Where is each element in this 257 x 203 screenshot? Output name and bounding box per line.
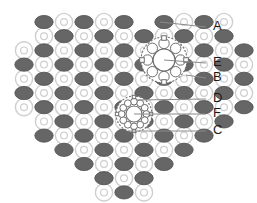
lattice-particle	[195, 44, 213, 57]
lattice-particle	[95, 58, 113, 71]
lattice-particle	[75, 157, 93, 170]
lattice-ring-inner	[241, 61, 248, 68]
lattice-ring-inner	[81, 90, 88, 97]
lattice-particle	[115, 44, 133, 57]
lattice-particle	[35, 129, 53, 142]
lattice-ring-inner	[101, 189, 108, 196]
rosette-node	[132, 95, 135, 98]
lattice-particle	[75, 15, 93, 28]
lattice-particle	[135, 143, 153, 156]
lattice-ring-inner	[61, 75, 68, 82]
lattice-ring-inner	[41, 90, 48, 97]
lattice-ring-inner	[81, 146, 88, 153]
lattice-particle	[95, 172, 113, 185]
lattice-ring-inner	[61, 19, 68, 26]
lattice-particle	[75, 101, 93, 114]
lattice-ring-inner	[41, 118, 48, 125]
lattice-ring-inner	[101, 75, 108, 82]
label-d: D	[213, 90, 222, 105]
lattice-particle	[95, 30, 113, 43]
lattice-particle	[95, 115, 113, 128]
lattice-ring-inner	[121, 33, 128, 40]
lattice-ring-inner	[201, 33, 208, 40]
rosette-node	[162, 36, 167, 41]
lattice-ring-inner	[201, 90, 208, 97]
lattice-ring-inner	[161, 146, 168, 153]
lattice-particle	[95, 143, 113, 156]
lattice-particle	[55, 143, 73, 156]
label-f: F	[213, 105, 221, 120]
lattice-ring-inner	[81, 118, 88, 125]
lattice-ring-inner	[101, 132, 108, 139]
lattice-ring-inner	[201, 118, 208, 125]
lattice-ring-inner	[21, 104, 28, 111]
rosette-petal	[124, 100, 131, 107]
lattice-ring-inner	[21, 75, 28, 82]
lattice-ring-inner	[101, 19, 108, 26]
lattice-ring-inner	[161, 118, 168, 125]
lattice-particle	[35, 101, 53, 114]
lattice-ring-inner	[101, 104, 108, 111]
lattice-ring-inner	[141, 75, 148, 82]
lattice-particle	[35, 44, 53, 57]
lattice-ring-inner	[121, 146, 128, 153]
lattice-particle	[35, 15, 53, 28]
lattice-particle	[55, 58, 73, 71]
lattice-particle	[175, 30, 193, 43]
rosette-node	[115, 112, 118, 115]
lattice-ring-inner	[181, 132, 188, 139]
lattice-ring-inner	[61, 104, 68, 111]
lattice-ring-inner	[61, 47, 68, 54]
lattice-particle	[75, 72, 93, 85]
lattice-ring-inner	[141, 189, 148, 196]
lattice-particle	[55, 30, 73, 43]
lattice-ring-inner	[21, 47, 28, 54]
lattice-particle	[15, 58, 33, 71]
lattice-ring-inner	[81, 61, 88, 68]
lattice-particle	[235, 101, 253, 114]
lattice-particle	[175, 86, 193, 99]
lattice-particle	[135, 30, 153, 43]
lattice-particle	[55, 86, 73, 99]
lattice-particle	[55, 115, 73, 128]
label-b: B	[213, 69, 222, 84]
label-e: E	[213, 54, 222, 69]
lattice-ring-inner	[181, 75, 188, 82]
lattice-particle	[195, 72, 213, 85]
lattice-particle	[135, 172, 153, 185]
lattice-particle	[115, 186, 133, 199]
lattice-particle	[75, 129, 93, 142]
lattice-ring-inner	[181, 104, 188, 111]
lattice-particle	[35, 72, 53, 85]
lattice-ring-inner	[41, 61, 48, 68]
lattice-particle	[235, 72, 253, 85]
lattice-ring-inner	[61, 132, 68, 139]
lattice-ring-inner	[141, 132, 148, 139]
lattice-particle	[115, 15, 133, 28]
lattice-ring-inner	[241, 90, 248, 97]
lattice-ring-inner	[101, 161, 108, 168]
lattice-ring-inner	[161, 90, 168, 97]
label-c: C	[213, 122, 222, 137]
lattice-ring-inner	[121, 61, 128, 68]
lattice-particle	[155, 157, 173, 170]
lattice-particle	[235, 44, 253, 57]
lattice-particle	[175, 143, 193, 156]
lattice-ring-inner	[121, 90, 128, 97]
lattice-particle	[15, 86, 33, 99]
rosette-node	[140, 58, 145, 63]
lattice-particle	[175, 115, 193, 128]
figure-canvas: AEBDFC	[0, 0, 257, 203]
label-a: A	[213, 18, 222, 33]
lattice-particle	[95, 86, 113, 99]
lattice-particle	[115, 72, 133, 85]
lattice-particle	[115, 157, 133, 170]
lattice-ring-inner	[41, 33, 48, 40]
lattice-particle	[75, 44, 93, 57]
lattice-diagram: AEBDFC	[0, 0, 257, 203]
lattice-particle	[155, 101, 173, 114]
lattice-ring-inner	[101, 47, 108, 54]
lattice-ring-inner	[141, 161, 148, 168]
lattice-ring-inner	[81, 33, 88, 40]
rosette-node	[162, 80, 167, 85]
